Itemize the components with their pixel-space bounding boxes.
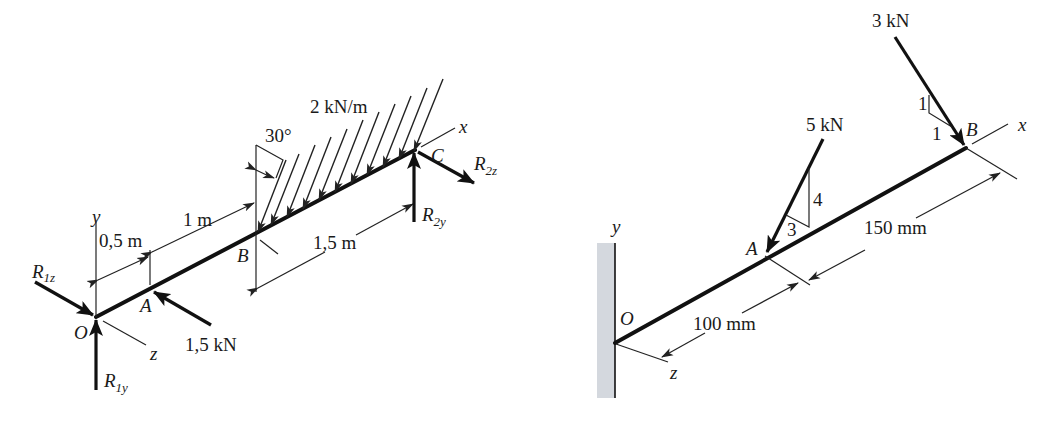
slope-label-b-rise: 1 [918, 93, 928, 114]
slope-label-a-rise: 4 [813, 189, 823, 210]
slope-label-b-run: 1 [932, 123, 942, 144]
point-label-o: O [74, 322, 88, 343]
dimension-bc-part2 [356, 204, 413, 235]
reaction-label-r2z: R2z [473, 153, 497, 178]
slope-label-a-run: 3 [787, 219, 797, 240]
dimension-oa-right-part2 [742, 283, 798, 313]
point-label-a: A [138, 295, 152, 316]
z-axis-line-right [616, 344, 668, 362]
point-label-c: C [431, 145, 444, 166]
point-label-o-right: O [620, 308, 634, 329]
point-label-a-right: A [744, 238, 758, 259]
tick-b [260, 240, 278, 254]
axis-label-z-right: z [669, 362, 678, 383]
force-r1z [35, 282, 93, 315]
extension-line-a-right [765, 256, 810, 285]
dimension-bc-part1 [258, 252, 325, 288]
axis-label-y: y [90, 206, 101, 227]
force-label-3kn: 3 kN [872, 10, 910, 31]
dimension-label-bc: 1,5 m [313, 232, 357, 253]
point-label-b-right: B [966, 119, 978, 140]
fixed-wall [597, 243, 615, 398]
reaction-label-r1y: R1y [103, 370, 128, 395]
z-axis-line [103, 321, 146, 345]
axis-label-x: x [458, 116, 468, 137]
force-3kn [895, 37, 964, 145]
dimension-oa [98, 257, 148, 280]
axis-label-x-right: x [1017, 114, 1027, 135]
right-figure: y z x O A B 100 mm 150 mm 5 kN 3 kN 4 3 … [597, 10, 1027, 398]
left-figure: y z x O A B C 0,5 m 1 m 1,5 m 1,5 kN 2 k… [31, 79, 497, 395]
force-label-5kn: 5 kN [806, 114, 844, 135]
axis-label-y-right: y [610, 216, 621, 237]
angle-arc [256, 170, 274, 178]
dimension-ab-right-part1 [809, 250, 865, 280]
diagram-canvas: y z x O A B C 0,5 m 1 m 1,5 m 1,5 kN 2 k… [0, 0, 1050, 421]
dimension-ab-right-part2 [916, 173, 1000, 218]
angle-guide [256, 145, 283, 178]
force-1-5kn [154, 292, 211, 325]
axis-label-z: z [149, 343, 158, 364]
extension-line-b-right [966, 148, 1017, 179]
cantilever-beam [615, 148, 966, 343]
dimension-label-ab: 1 m [183, 209, 212, 230]
angle-label: 30° [265, 125, 292, 146]
reaction-label-r2y: R2y [421, 204, 446, 229]
dimension-oa-right-part1 [662, 333, 705, 357]
reaction-label-r1z: R1z [31, 261, 55, 285]
dimension-label-oa: 0,5 m [99, 230, 143, 251]
force-r2z [418, 152, 474, 183]
distributed-load-label: 2 kN/m [310, 96, 368, 117]
dimension-label-oa-right: 100 mm [693, 313, 756, 334]
force-label-1-5kn: 1,5 kN [185, 334, 237, 355]
dimension-label-ab-right: 150 mm [864, 217, 927, 238]
point-label-b: B [237, 245, 249, 266]
